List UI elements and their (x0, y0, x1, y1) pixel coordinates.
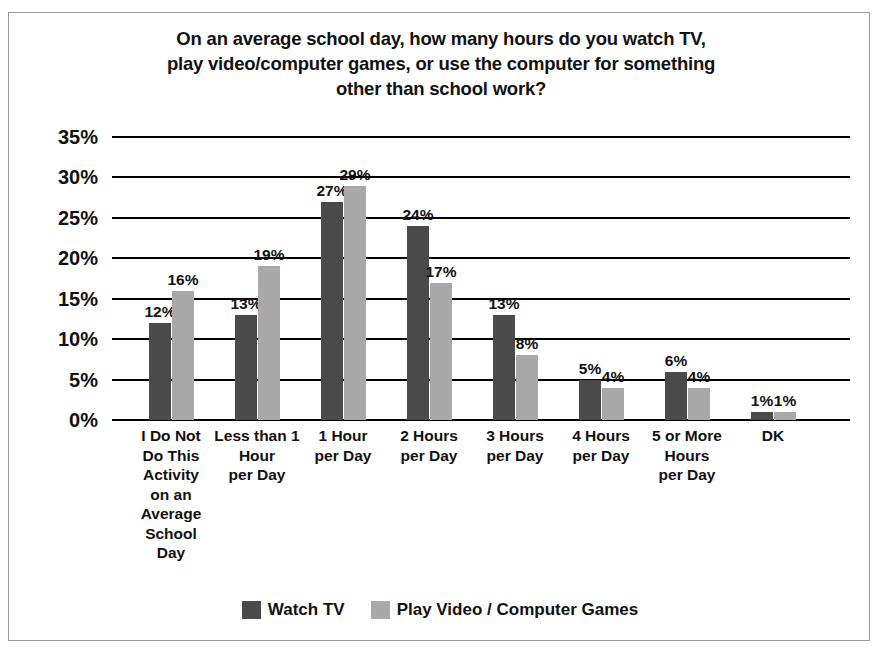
chart-title-line-3: other than school work? (60, 76, 822, 101)
bar-watch-tv[interactable]: 12% (149, 323, 171, 420)
bar-group: 6%4% (646, 137, 732, 420)
x-axis-category-line: Hours (644, 446, 730, 466)
y-axis-tick-25%: 25% (32, 206, 98, 229)
x-axis-category-line: on an (128, 485, 214, 505)
bar-group: 13%19% (216, 137, 302, 420)
legend-label-watch-tv: Watch TV (268, 600, 345, 620)
bar-watch-tv[interactable]: 27% (321, 202, 343, 420)
bar-value-label: 27% (316, 182, 347, 200)
bar-value-label: 24% (402, 206, 433, 224)
bar-group: 27%29% (302, 137, 388, 420)
x-axis-category-line: I Do Not (128, 426, 214, 446)
bar-watch-tv[interactable]: 6% (665, 372, 687, 421)
x-axis-category-line: per Day (214, 465, 300, 485)
bar-value-label: 12% (144, 303, 175, 321)
bar-value-label: 1% (751, 392, 773, 410)
x-axis-category-line: Less than 1 (214, 426, 300, 446)
bar-watch-tv[interactable]: 13% (493, 315, 515, 420)
x-axis-category-label: 2 Hoursper Day (386, 426, 472, 465)
x-axis-category-line: 5 or More (644, 426, 730, 446)
chart-title: On an average school day, how many hours… (60, 26, 822, 101)
bar-value-label: 13% (488, 295, 519, 313)
legend-item-watch-tv[interactable]: Watch TV (242, 600, 345, 620)
x-axis-category-line: 1 Hour (300, 426, 386, 446)
x-axis-category-line: Do This (128, 446, 214, 466)
bar-play-video-computer-games[interactable]: 16% (172, 291, 194, 420)
bar-watch-tv[interactable]: 1% (751, 412, 773, 420)
x-axis-category-line: DK (730, 426, 816, 446)
bar-play-video-computer-games[interactable]: 1% (774, 412, 796, 420)
bar-watch-tv[interactable]: 5% (579, 380, 601, 420)
chart-legend: Watch TV Play Video / Computer Games (0, 600, 880, 620)
bar-group: 5%4% (560, 137, 646, 420)
x-axis-category-line: 2 Hours (386, 426, 472, 446)
y-axis-tick-5%: 5% (32, 368, 98, 391)
bar-play-video-computer-games[interactable]: 19% (258, 266, 280, 420)
bar-value-label: 13% (230, 295, 261, 313)
legend-swatch-watch-tv (242, 601, 261, 619)
bar-watch-tv[interactable]: 13% (235, 315, 257, 420)
legend-item-play-video-computer-games[interactable]: Play Video / Computer Games (371, 600, 639, 620)
legend-swatch-play-video-computer-games (371, 601, 390, 619)
x-axis-category-line: per Day (386, 446, 472, 466)
bar-watch-tv[interactable]: 24% (407, 226, 429, 420)
bar-value-label: 8% (516, 335, 538, 353)
x-axis-category-label: 5 or MoreHoursper Day (644, 426, 730, 485)
bar-group: 1%1% (732, 137, 818, 420)
x-axis-category-label: I Do NotDo ThisActivityon anAverageSchoo… (128, 426, 214, 563)
bar-play-video-computer-games[interactable]: 29% (344, 186, 366, 420)
x-axis-category-line: per Day (300, 446, 386, 466)
bar-value-label: 16% (167, 271, 198, 289)
x-axis-category-line: School (128, 524, 214, 544)
y-axis-tick-10%: 10% (32, 328, 98, 351)
x-axis-category-line: 3 Hours (472, 426, 558, 446)
bar-play-video-computer-games[interactable]: 8% (516, 355, 538, 420)
bar-value-label: 29% (339, 166, 370, 184)
x-axis-category-line: Average (128, 504, 214, 524)
bar-play-video-computer-games[interactable]: 4% (688, 388, 710, 420)
plot-area: 0%5%10%15%20%25%30%35%12%16%13%19%27%29%… (112, 137, 850, 420)
y-axis-tick-20%: 20% (32, 247, 98, 270)
y-axis-tick-30%: 30% (32, 166, 98, 189)
x-axis-category-line: Day (128, 543, 214, 563)
bar-value-label: 6% (665, 352, 687, 370)
y-axis-tick-0%: 0% (32, 409, 98, 432)
chart-title-line-1: On an average school day, how many hours… (60, 26, 822, 51)
chart-figure: On an average school day, how many hours… (0, 0, 880, 651)
bar-value-label: 1% (774, 392, 796, 410)
x-axis-category-label: 4 Hoursper Day (558, 426, 644, 465)
bar-value-label: 5% (579, 360, 601, 378)
x-axis-category-line: Activity (128, 465, 214, 485)
x-axis-category-line: 4 Hours (558, 426, 644, 446)
bar-value-label: 4% (602, 368, 624, 386)
bar-value-label: 19% (253, 246, 284, 264)
bar-play-video-computer-games[interactable]: 17% (430, 283, 452, 420)
x-axis-category-label: 1 Hourper Day (300, 426, 386, 465)
x-axis-category-line: per Day (644, 465, 730, 485)
x-axis-category-label: 3 Hoursper Day (472, 426, 558, 465)
x-axis-category-line: Hour (214, 446, 300, 466)
x-axis-category-label: Less than 1Hourper Day (214, 426, 300, 485)
bar-play-video-computer-games[interactable]: 4% (602, 388, 624, 420)
bar-group: 13%8% (474, 137, 560, 420)
y-axis-tick-15%: 15% (32, 287, 98, 310)
chart-title-line-2: play video/computer games, or use the co… (60, 51, 822, 76)
x-axis-category-line: per Day (558, 446, 644, 466)
bar-value-label: 17% (425, 263, 456, 281)
bar-group: 12%16% (130, 137, 216, 420)
legend-label-play-video-computer-games: Play Video / Computer Games (397, 600, 639, 620)
bar-group: 24%17% (388, 137, 474, 420)
x-axis-category-line: per Day (472, 446, 558, 466)
bar-value-label: 4% (688, 368, 710, 386)
y-axis-tick-35%: 35% (32, 126, 98, 149)
x-axis-category-label: DK (730, 426, 816, 446)
